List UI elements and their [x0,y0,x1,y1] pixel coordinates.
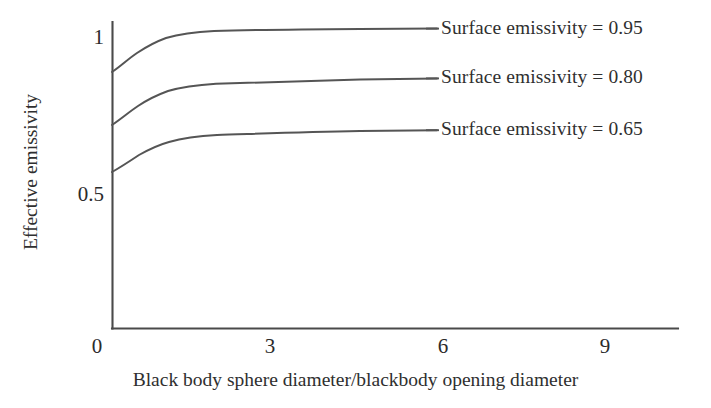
y-tick-label-1: 1 [58,25,104,50]
y-axis-title-wrapper: Effective emissivity [20,72,50,272]
y-axis-title: Effective emissivity [20,94,41,250]
x-axis-title: Black body sphere diameter/blackbody ope… [0,369,711,391]
series-curve-1 [112,78,437,125]
series-label-2: Surface emissivity = 0.65 [441,118,643,140]
x-tick-label-0: 0 [82,334,112,359]
y-tick-label-0.5: 0.5 [58,182,104,207]
series-curve-0 [112,29,437,72]
x-tick-label-9: 9 [590,334,620,359]
x-tick-label-6: 6 [428,334,458,359]
x-tick-label-3: 3 [255,334,285,359]
chart-figure: 1 0.5 0 3 6 9 Surface emissivity = 0.95 … [0,0,711,408]
series-curve-2 [112,130,437,172]
series-label-1: Surface emissivity = 0.80 [441,66,643,88]
series-label-0: Surface emissivity = 0.95 [441,17,643,39]
